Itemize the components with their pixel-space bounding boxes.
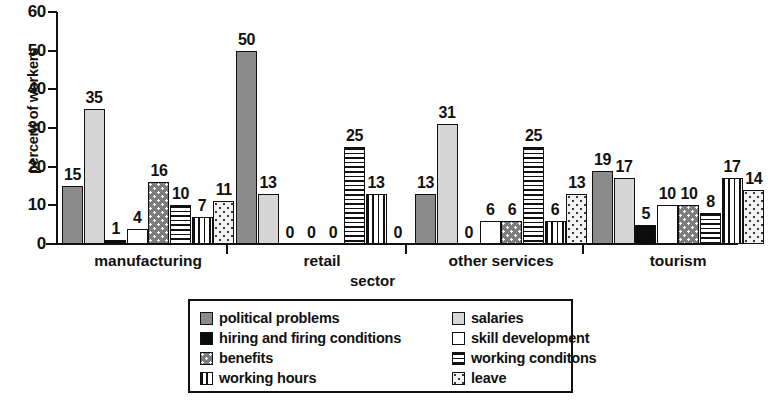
bar — [566, 194, 587, 244]
legend-item[interactable]: skill development — [452, 328, 597, 348]
legend-label: benefits — [219, 351, 273, 366]
x-axis-group-label: retail — [232, 252, 412, 270]
x-axis-title: sector — [0, 272, 745, 289]
y-axis-tick — [48, 11, 57, 13]
legend-label: skill development — [471, 331, 589, 346]
x-axis-group-separator — [405, 245, 407, 254]
legend-swatch-salaries-icon — [452, 312, 465, 325]
bar — [192, 217, 213, 244]
legend-swatch-leave-icon — [452, 372, 465, 385]
legend-label: political problems — [219, 311, 339, 326]
y-axis-tick-label: 60 — [12, 3, 46, 20]
bar-value-label: 35 — [78, 90, 111, 106]
legend-item[interactable]: working conditons — [452, 348, 597, 368]
bar-value-label: 25 — [338, 128, 371, 144]
bar — [523, 147, 544, 244]
bar — [127, 229, 148, 244]
x-axis-group-separator — [226, 245, 228, 254]
y-axis-tick-label: 0 — [12, 235, 46, 252]
bar — [236, 51, 257, 244]
x-axis-group-separator — [582, 245, 584, 254]
legend-swatch-political-icon — [200, 312, 213, 325]
plot-area: 1535141610711501300025130133106625613191… — [57, 12, 738, 244]
bar — [213, 201, 234, 244]
bar — [105, 240, 126, 244]
bar-value-label: 16 — [142, 163, 175, 179]
legend-item[interactable]: benefits — [200, 348, 401, 368]
legend-item[interactable]: working hours — [200, 368, 401, 388]
bar-value-label: 50 — [230, 32, 263, 48]
legend-swatch-hiring-icon — [200, 332, 213, 345]
legend-item[interactable]: leave — [452, 368, 597, 388]
bar — [415, 194, 436, 244]
bar-value-label: 13 — [360, 175, 393, 191]
bar — [501, 221, 522, 244]
y-axis-tick — [48, 243, 57, 245]
y-axis-tick — [48, 127, 57, 129]
x-axis-group-label: manufacturing — [58, 252, 238, 270]
bar — [678, 205, 699, 244]
bar-value-label: 14 — [737, 171, 768, 187]
y-axis-tick — [48, 50, 57, 52]
bar — [635, 225, 656, 244]
legend-column-right: salariesskill developmentworking condito… — [452, 308, 597, 388]
bar — [722, 178, 743, 244]
bar-value-label: 13 — [560, 175, 593, 191]
legend-label: working hours — [219, 371, 316, 386]
y-axis-tick — [48, 204, 57, 206]
y-axis-tick — [48, 88, 57, 90]
legend-column-left: political problemshiring and firing cond… — [200, 308, 401, 388]
legend-swatch-hours-icon — [200, 372, 213, 385]
bar — [592, 171, 613, 244]
legend-label: hiring and firing conditions — [219, 331, 401, 346]
legend-label: salaries — [471, 311, 523, 326]
legend-item[interactable]: political problems — [200, 308, 401, 328]
bar-value-label: 17 — [608, 159, 641, 175]
legend-swatch-conditions-icon — [452, 352, 465, 365]
bar — [62, 186, 83, 244]
bar — [657, 205, 678, 244]
legend-swatch-benefits-icon — [200, 352, 213, 365]
legend-label: leave — [471, 371, 506, 386]
bar — [743, 190, 764, 244]
bar-value-label: 25 — [517, 128, 550, 144]
legend-item[interactable]: salaries — [452, 308, 597, 328]
x-axis-group-label: other services — [411, 252, 591, 270]
bar-value-label: 0 — [381, 225, 414, 241]
legend-swatch-skill-icon — [452, 332, 465, 345]
bar-value-label: 13 — [252, 175, 285, 191]
legend-item[interactable]: hiring and firing conditions — [200, 328, 401, 348]
bar — [480, 221, 501, 244]
bar-value-label: 31 — [431, 105, 464, 121]
bar — [700, 213, 721, 244]
bar — [344, 147, 365, 244]
y-axis-title: percent of workers — [25, 21, 41, 201]
legend-label: working conditons — [471, 351, 597, 366]
legend: political problemshiring and firing cond… — [188, 299, 573, 393]
bar — [545, 221, 566, 244]
x-axis-group-label: tourism — [588, 252, 768, 270]
